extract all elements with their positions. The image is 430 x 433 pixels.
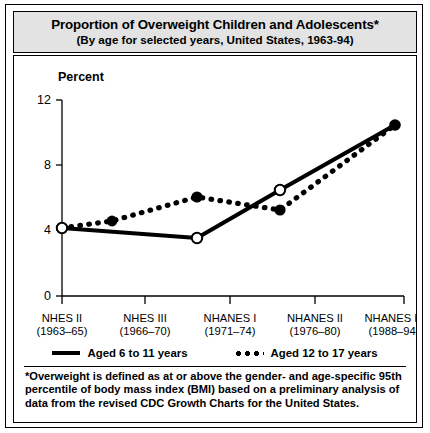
- x-axis-ticks: [62, 296, 404, 304]
- footnote-divider: [24, 366, 406, 367]
- x-tick-label-1: NHES III: [123, 312, 167, 324]
- x-tick-year-2: (1971–74): [204, 325, 255, 337]
- chart-legend: Aged 6 to 11 years Aged 12 to 17 years: [14, 342, 416, 364]
- plot-area: Percent 12 8 4 0: [14, 56, 416, 422]
- x-tick-year-1: (1966–70): [119, 325, 170, 337]
- legend-item-aged-6-11: Aged 6 to 11 years: [52, 347, 187, 359]
- legend-label-aged-12-17: Aged 12 to 17 years: [271, 347, 378, 359]
- y-axis-tick-labels: 12 8 4 0: [37, 93, 51, 303]
- x-tick-label-4: NHANES III: [364, 312, 416, 324]
- chart-title-band: Proportion of Overweight Children and Ad…: [13, 11, 417, 53]
- solid-line-swatch-icon: [52, 351, 80, 355]
- y-tick-12: 12: [37, 93, 51, 107]
- x-tick-year-4: (1988–94): [368, 325, 416, 337]
- chart-container: Percent 12 8 4 0: [13, 55, 417, 423]
- x-tick-label-2: NHANES I: [204, 312, 257, 324]
- series-line-aged-12-17: [62, 125, 395, 228]
- y-tick-0: 0: [44, 289, 51, 303]
- y-axis-ticks: [56, 100, 62, 296]
- y-tick-4: 4: [44, 223, 51, 237]
- figure-panel: Proportion of Overweight Children and Ad…: [5, 4, 423, 428]
- legend-item-aged-12-17: Aged 12 to 17 years: [234, 347, 378, 359]
- footnote-text: *Overweight is defined as at or above th…: [25, 370, 409, 410]
- legend-label-aged-6-11: Aged 6 to 11 years: [87, 347, 187, 359]
- chart-svg: 12 8 4 0: [14, 56, 416, 342]
- dotted-line-swatch-icon: [234, 351, 264, 356]
- y-tick-8: 8: [44, 158, 51, 172]
- x-tick-year-0: (1963–65): [36, 325, 87, 337]
- page-title: Proportion of Overweight Children and Ad…: [51, 17, 379, 32]
- x-axis-tick-labels: NHES II (1963–65) NHES III (1966–70) NHA…: [36, 312, 416, 337]
- x-tick-label-3: NHANES II: [287, 312, 343, 324]
- x-tick-label-0: NHES II: [42, 312, 82, 324]
- x-tick-year-3: (1976–80): [289, 325, 340, 337]
- page-subtitle: (By age for selected years, United State…: [76, 33, 353, 47]
